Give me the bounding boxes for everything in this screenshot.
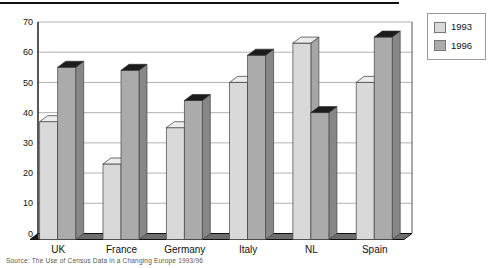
y-tick-label-20: 20 — [23, 168, 33, 178]
x-category-label-nl: NL — [305, 244, 318, 255]
bar-spain-1996-front — [374, 37, 392, 239]
bar-france-1993-front — [103, 164, 121, 240]
bar-uk-1996-side — [76, 61, 84, 239]
legend: 1993 1996 — [427, 13, 486, 60]
bar-spain-1993-front — [356, 82, 374, 239]
source-caption: Source: The Use of Census Data in a Chan… — [6, 257, 486, 264]
bar-france-1996-front — [121, 70, 139, 239]
legend-swatch-1996 — [434, 40, 446, 51]
x-category-label-germany: Germany — [164, 244, 205, 255]
floor — [30, 234, 412, 240]
bar-nl-1996-side — [329, 107, 337, 240]
bar-spain-1996-side — [392, 31, 400, 239]
figure: 010203040506070UKFranceGermanyItalyNLSpa… — [0, 0, 493, 268]
y-tick-label-30: 30 — [23, 138, 33, 148]
bar-italy-1993-front — [230, 82, 248, 239]
bar-nl-1996-front — [311, 113, 329, 240]
y-tick-label-60: 60 — [23, 47, 33, 57]
bar-uk-1996-front — [58, 67, 76, 239]
bar-uk-1993-front — [40, 122, 58, 240]
legend-item-1996: 1996 — [434, 40, 485, 51]
bar-france-1996-side — [139, 64, 147, 239]
legend-item-1993: 1993 — [434, 22, 485, 33]
bar-germany-1996-side — [202, 95, 210, 240]
x-category-label-spain: Spain — [362, 244, 388, 255]
bar-italy-1996-front — [248, 55, 266, 239]
x-category-label-italy: Italy — [239, 244, 257, 255]
legend-swatch-1993 — [434, 22, 446, 33]
y-tick-label-70: 70 — [23, 17, 33, 27]
bar-nl-1993-front — [293, 43, 311, 239]
legend-label-1996: 1996 — [451, 41, 472, 51]
y-tick-label-0: 0 — [28, 229, 33, 239]
y-tick-label-10: 10 — [23, 198, 33, 208]
bar-germany-1996-front — [184, 101, 202, 240]
bar-germany-1993-front — [166, 128, 184, 240]
legend-label-1993: 1993 — [451, 22, 472, 32]
x-category-label-uk: UK — [51, 244, 65, 255]
y-tick-label-40: 40 — [23, 108, 33, 118]
x-category-label-france: France — [106, 244, 138, 255]
bar-italy-1996-side — [266, 49, 274, 239]
bar-chart-3d: 010203040506070UKFranceGermanyItalyNLSpa… — [0, 0, 493, 268]
y-tick-label-50: 50 — [23, 78, 33, 88]
